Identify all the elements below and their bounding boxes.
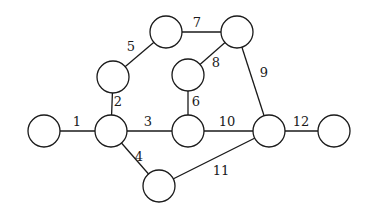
node-d [150, 16, 182, 48]
edge-label: 7 [193, 16, 201, 29]
node-g [172, 115, 204, 147]
edge-label: 12 [293, 115, 310, 128]
edge-label: 2 [114, 95, 122, 108]
node-j [143, 170, 175, 202]
node-h [253, 115, 285, 147]
edges-layer [44, 32, 334, 186]
node-i [318, 115, 350, 147]
node-a [28, 115, 60, 147]
edge-label: 6 [192, 95, 200, 108]
node-b [95, 115, 127, 147]
graph-diagram: 123456789101112 [0, 0, 374, 216]
node-e [221, 16, 253, 48]
edge-label: 10 [219, 115, 236, 128]
node-f [172, 59, 204, 91]
nodes-layer [28, 16, 350, 202]
node-c [97, 61, 129, 93]
graph-svg [0, 0, 374, 216]
edge-label: 4 [135, 150, 143, 163]
edge-label: 1 [73, 115, 81, 128]
edge-label: 9 [260, 66, 268, 79]
edge-label: 5 [127, 40, 135, 53]
edge-label: 11 [213, 164, 230, 177]
edge-label: 8 [212, 56, 220, 69]
edge-label: 3 [144, 115, 152, 128]
